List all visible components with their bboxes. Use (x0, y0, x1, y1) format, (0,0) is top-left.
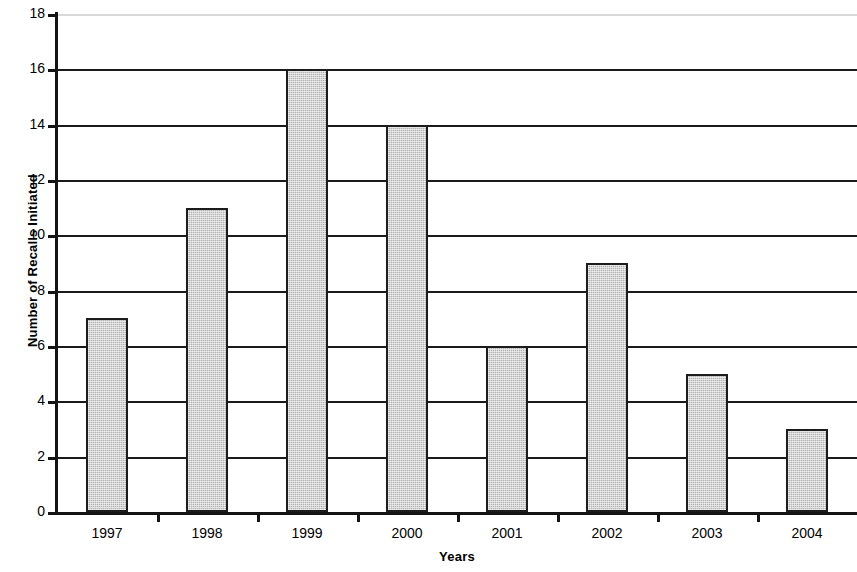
gridline (57, 235, 857, 237)
gridline (57, 69, 857, 71)
x-axis-tick (257, 513, 260, 522)
bar-2004 (786, 429, 828, 512)
x-axis-tick-label: 2001 (462, 525, 552, 541)
y-axis-tick-label: 18 (5, 6, 45, 20)
y-axis-title: Number of Recalls Initiated (25, 111, 40, 411)
x-axis-tick (657, 513, 660, 522)
y-axis-tick-label: 2 (5, 449, 45, 463)
bar-1999 (286, 69, 328, 512)
y-axis-tick (48, 125, 58, 128)
x-axis-tick (357, 513, 360, 522)
y-axis-line (55, 12, 58, 514)
y-axis-tick (48, 69, 58, 72)
y-axis-tick-label: 12 (5, 172, 45, 186)
bar-1998 (186, 208, 228, 512)
plot-area (57, 14, 857, 512)
y-axis-tick-label: 6 (5, 338, 45, 352)
x-axis-tick (157, 513, 160, 522)
y-axis-tick (48, 291, 58, 294)
x-axis-tick-label: 1999 (262, 525, 352, 541)
bar-2003 (686, 374, 728, 512)
bar-2000 (386, 125, 428, 512)
y-axis-tick-label: 10 (5, 227, 45, 241)
gridline (57, 457, 857, 459)
y-axis-tick (48, 401, 58, 404)
bar-chart: Number of Recalls Initiated Years 181614… (0, 0, 857, 572)
y-axis-tick-label: 0 (5, 504, 45, 518)
y-axis-tick (48, 235, 58, 238)
gridline (57, 14, 857, 16)
y-axis-tick-label: 14 (5, 117, 45, 131)
bar-1997 (86, 318, 128, 512)
y-axis-tick (48, 457, 58, 460)
gridline (57, 401, 857, 403)
x-axis-tick (557, 513, 560, 522)
gridline (57, 291, 857, 293)
x-axis-tick (457, 513, 460, 522)
y-axis-tick-label: 8 (5, 283, 45, 297)
x-axis-tick-label: 2002 (562, 525, 652, 541)
y-axis-tick (48, 512, 58, 515)
gridline (57, 180, 857, 182)
y-axis-tick-label: 4 (5, 393, 45, 407)
bar-2002 (586, 263, 628, 512)
x-axis-line (55, 512, 857, 515)
y-axis-tick (48, 180, 58, 183)
x-axis-tick (757, 513, 760, 522)
gridline (57, 125, 857, 127)
x-axis-title: Years (57, 549, 857, 564)
x-axis-tick-label: 2003 (662, 525, 752, 541)
x-axis-tick-label: 1998 (162, 525, 252, 541)
bar-2001 (486, 346, 528, 512)
y-axis-tick (48, 14, 58, 17)
y-axis-tick-label: 16 (5, 61, 45, 75)
x-axis-tick-label: 1997 (62, 525, 152, 541)
x-axis-tick-label: 2004 (762, 525, 852, 541)
x-axis-tick-label: 2000 (362, 525, 452, 541)
y-axis-tick (48, 346, 58, 349)
gridline (57, 346, 857, 348)
